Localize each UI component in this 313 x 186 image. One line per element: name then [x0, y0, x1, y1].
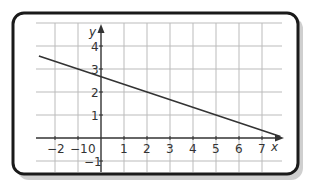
y-tick-label: 2 — [91, 86, 99, 100]
y-tick-label: −1 — [84, 155, 102, 169]
x-tick-label: 5 — [212, 142, 220, 156]
chart: xy−2−101234567−11234 — [0, 0, 313, 186]
x-tick-label: 3 — [166, 142, 174, 156]
x-tick-label: −1 — [70, 142, 88, 156]
x-tick-label: 0 — [88, 142, 96, 156]
y-tick-label: 1 — [91, 109, 99, 123]
x-tick-label: 1 — [120, 142, 128, 156]
x-tick-label: 2 — [143, 142, 151, 156]
x-tick-label: 7 — [258, 142, 266, 156]
x-tick-label: 6 — [235, 142, 243, 156]
y-tick-label: 4 — [91, 40, 99, 54]
y-axis-label: y — [88, 25, 97, 39]
x-axis-label: x — [270, 140, 279, 154]
x-tick-label: −2 — [47, 142, 65, 156]
x-tick-label: 4 — [189, 142, 197, 156]
